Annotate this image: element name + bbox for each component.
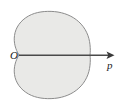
figure-canvas xyxy=(0,0,124,106)
polar-axis-label: p xyxy=(107,60,113,71)
cardioid-figure: O p xyxy=(0,0,124,106)
origin-label: O xyxy=(10,50,18,61)
